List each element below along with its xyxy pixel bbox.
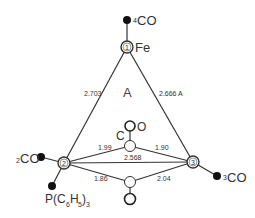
bridge-c-label: C bbox=[116, 129, 125, 143]
distance-fe1-fe2: 2.703 bbox=[84, 90, 102, 97]
fe1-label: Fe bbox=[135, 40, 150, 55]
distance-fe1-fe3: 2.666 A bbox=[159, 90, 183, 97]
bond-fe1-fe2 bbox=[64, 47, 127, 163]
bond-fe2-cupper bbox=[64, 146, 130, 163]
fe3-atom: 3 bbox=[187, 156, 199, 168]
distance-fe3-clower: 2.04 bbox=[157, 175, 171, 182]
fe2-number: 2 bbox=[62, 160, 66, 167]
distance-fe2-clower: 1.86 bbox=[94, 175, 108, 182]
co3-label: CO bbox=[227, 170, 247, 185]
upper-bridge-carbon-atom bbox=[125, 141, 136, 152]
svg-text:3: 3 bbox=[86, 201, 90, 208]
co4-carbon-atom bbox=[123, 16, 131, 24]
co2-label: CO bbox=[20, 151, 40, 166]
fe1-number: 1 bbox=[125, 44, 129, 51]
co3-carbon-atom bbox=[213, 172, 221, 180]
distance-fe2-fe3: 2.568 bbox=[124, 154, 142, 161]
bond-fe2-fe3 bbox=[64, 162, 193, 163]
fe2-atom: 2 bbox=[58, 157, 70, 169]
lower-bridge-carbon-atom bbox=[125, 177, 136, 188]
co4-label: CO bbox=[137, 13, 157, 28]
region-a-label: A bbox=[123, 85, 132, 100]
triiron-cluster-diagram: 1 2 3 Fe 4 CO 2 CO 3 CO P(C 6 H 5 ) 3 A … bbox=[0, 0, 255, 218]
bridge-o-label: O bbox=[137, 120, 146, 134]
phosphorus-atom bbox=[48, 182, 56, 190]
fe3-number: 3 bbox=[191, 159, 195, 166]
distance-fe3-cupper: 1.90 bbox=[155, 144, 169, 151]
phosphine-p: P(C bbox=[45, 192, 66, 206]
upper-bridge-oxygen-atom bbox=[125, 121, 135, 131]
fe1-atom: 1 bbox=[121, 41, 133, 53]
phosphine-label: P(C 6 H 5 ) 3 bbox=[45, 192, 90, 208]
lower-bridge-oxygen-atom bbox=[125, 194, 136, 205]
distance-fe2-cupper: 1.99 bbox=[98, 144, 112, 151]
